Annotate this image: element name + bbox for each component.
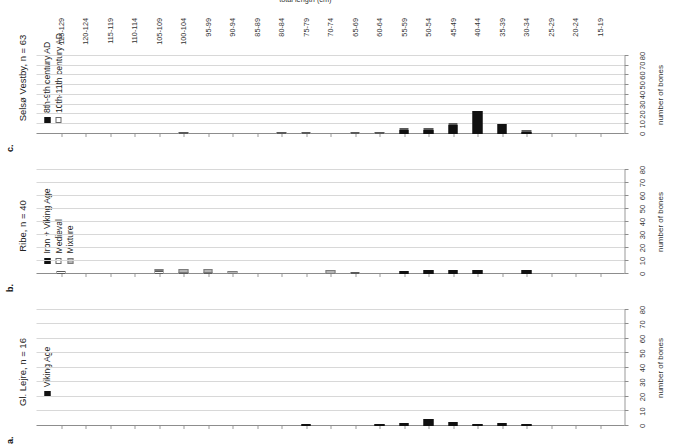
category-tick	[355, 274, 356, 277]
x-axis-tick	[624, 84, 628, 85]
category-tick	[257, 134, 258, 137]
category-tick	[183, 134, 184, 137]
multi-panel-bar-chart: a. Gl. Lejre, n = 16 Viking Age 01020304…	[0, 0, 691, 448]
category-tick	[281, 426, 282, 429]
category-label: 40-44	[473, 18, 482, 37]
x-axis-tick-label: 10	[637, 257, 646, 265]
category-tick	[159, 274, 160, 277]
bar-segment	[448, 125, 457, 134]
category-label: 125-129	[56, 18, 65, 45]
category-tick	[379, 134, 380, 137]
gridline	[36, 104, 624, 105]
category-tick	[600, 134, 601, 137]
x-axis-tick-label: 40	[637, 91, 646, 99]
panel-c-title: Selsø Vestby, n = 63	[16, 0, 27, 156]
bar-segment	[350, 272, 359, 274]
category-label: 70-74	[326, 18, 335, 37]
bar-segment	[448, 422, 457, 426]
x-axis-tick-label: 20	[637, 110, 646, 118]
category-tick	[428, 134, 429, 137]
category-label: 45-49	[448, 18, 457, 37]
x-axis-tick-label: 50	[637, 205, 646, 213]
category-label: 115-119	[105, 18, 114, 44]
category-tick	[551, 134, 552, 137]
bar-segment	[448, 123, 457, 125]
category-tick	[232, 134, 233, 137]
bar-segment	[399, 128, 408, 130]
category-tick	[281, 274, 282, 277]
panel-a-letter: a.	[4, 436, 14, 444]
category-tick	[428, 426, 429, 429]
bar-segment	[423, 270, 432, 274]
panel-b-plot-area: 01020304050607080number of bones	[36, 170, 625, 274]
category-tick	[575, 426, 576, 429]
bar-segment	[374, 424, 383, 426]
x-axis-tick-label: 70	[637, 62, 646, 70]
x-axis-tick-label: 50	[637, 81, 646, 89]
gridline	[36, 94, 624, 95]
x-axis-tick	[624, 411, 628, 412]
gridline	[36, 123, 624, 124]
x-axis-tick-label: 70	[637, 179, 646, 187]
gridline	[36, 260, 624, 261]
category-tick	[85, 274, 86, 277]
category-label: 80-84	[277, 18, 286, 37]
gridline	[36, 411, 624, 412]
bar-segment	[178, 269, 187, 273]
gridline	[36, 338, 624, 339]
gridline	[36, 221, 624, 222]
category-tick	[355, 134, 356, 137]
category-tick	[134, 134, 135, 137]
x-axis-tick	[624, 382, 628, 383]
category-tick	[551, 426, 552, 429]
gridline	[36, 114, 624, 115]
x-axis-title: number of bones	[655, 56, 664, 134]
bar-segment	[423, 130, 432, 134]
x-axis-tick-label: 40	[637, 364, 646, 372]
bar-segment	[203, 269, 212, 273]
x-axis-tick-label: 30	[637, 378, 646, 386]
gridline	[36, 195, 624, 196]
x-axis-tick	[624, 169, 628, 170]
gridline	[36, 324, 624, 325]
x-axis-tick	[624, 195, 628, 196]
category-label: 95-99	[203, 18, 212, 37]
x-axis-tick	[624, 309, 628, 310]
category-tick	[330, 426, 331, 429]
category-label: 35-39	[497, 18, 506, 37]
category-tick	[85, 426, 86, 429]
bar-segment	[301, 424, 310, 426]
bar-segment	[56, 271, 65, 274]
category-tick	[477, 274, 478, 277]
category-tick	[575, 134, 576, 137]
x-axis-tick-label: 0	[637, 132, 646, 136]
gridline	[36, 182, 624, 183]
x-axis-tick-label: 60	[637, 335, 646, 343]
category-tick	[183, 274, 184, 277]
bar-segment	[325, 270, 334, 274]
bar-segment	[423, 128, 432, 130]
gridline	[36, 309, 624, 310]
x-axis-tick-label: 50	[637, 349, 646, 357]
bar-segment	[521, 132, 530, 134]
category-tick	[526, 426, 527, 429]
x-axis-tick	[624, 367, 628, 368]
bar-segment	[521, 130, 530, 132]
category-tick	[306, 426, 307, 429]
category-tick	[85, 134, 86, 137]
category-label: 90-94	[228, 18, 237, 37]
category-tick	[61, 274, 62, 277]
bar-segment	[399, 130, 408, 134]
category-tick	[379, 426, 380, 429]
category-tick	[428, 274, 429, 277]
category-tick	[257, 426, 258, 429]
bar-segment	[472, 270, 481, 274]
gridline	[36, 234, 624, 235]
category-label: 65-69	[350, 18, 359, 37]
category-label: 120-124	[81, 18, 90, 45]
x-axis-tick-label: 20	[637, 244, 646, 252]
x-axis-tick	[624, 247, 628, 248]
category-tick	[183, 426, 184, 429]
x-axis-tick	[624, 425, 628, 426]
x-axis-tick-label: 80	[637, 52, 646, 60]
